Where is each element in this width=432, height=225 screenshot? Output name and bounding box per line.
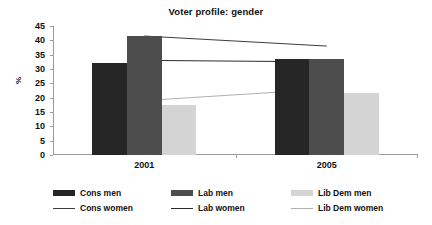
legend-line-stroke	[53, 208, 75, 209]
legend-line-icon	[291, 205, 313, 211]
y-axis-tick-label: 30	[35, 64, 45, 74]
y-axis-tick-label: 45	[35, 21, 45, 31]
bar-cons-men-2001	[92, 63, 127, 155]
bar-lib-dem-men-2005	[344, 93, 379, 155]
legend-line-icon	[53, 205, 75, 211]
plot-area	[53, 26, 418, 155]
legend-label: Cons women	[80, 203, 133, 213]
chart-title: Voter profile: gender	[0, 6, 432, 17]
x-axis-tick	[236, 155, 237, 158]
y-axis-tick-label: 25	[35, 78, 45, 88]
legend-item-lab-women[interactable]: Lab women	[171, 201, 245, 215]
legend-item-lib-dem-men[interactable]: Lib Dem men	[291, 186, 371, 200]
y-axis-tick	[50, 69, 53, 70]
legend-label: Lab men	[198, 188, 233, 198]
legend-swatch-icon	[291, 190, 313, 196]
y-axis-tick-label: 40	[35, 35, 45, 45]
legend-item-lab-men[interactable]: Lab men	[171, 186, 233, 200]
x-axis-tick-label: 2005	[317, 160, 337, 170]
x-axis-tick-label: 2001	[134, 160, 154, 170]
y-axis-tick	[50, 26, 53, 27]
legend-item-lib-dem-women[interactable]: Lib Dem women	[291, 201, 383, 215]
y-axis-tick-labels: 051015202530354045	[0, 26, 48, 155]
y-axis-tick-label: 15	[35, 107, 45, 117]
x-axis-tick-labels: 20012005	[53, 160, 418, 174]
chart-legend: Cons menLab menLib Dem men Cons womenLab…	[53, 186, 413, 218]
bar-lib-dem-men-2001	[162, 105, 197, 155]
legend-row-lines: Cons womenLab womenLib Dem women	[53, 201, 413, 215]
legend-label: Lab women	[198, 203, 245, 213]
bar-lab-men-2005	[309, 59, 344, 155]
legend-swatch-icon	[53, 190, 75, 196]
y-axis-tick	[50, 40, 53, 41]
y-axis-tick-label: 10	[35, 121, 45, 131]
bar-cons-men-2005	[275, 59, 310, 155]
legend-item-cons-women[interactable]: Cons women	[53, 201, 133, 215]
legend-label: Cons men	[80, 188, 121, 198]
legend-row-bars: Cons menLab menLib Dem men	[53, 186, 413, 200]
y-axis-tick	[50, 126, 53, 127]
bar-lab-men-2001	[127, 36, 162, 155]
legend-line-icon	[171, 205, 193, 211]
y-axis-tick	[50, 98, 53, 99]
y-axis-tick	[50, 112, 53, 113]
legend-label: Lib Dem men	[318, 188, 371, 198]
legend-label: Lib Dem women	[318, 203, 383, 213]
y-axis-tick	[50, 155, 53, 156]
legend-line-stroke	[171, 208, 193, 209]
y-axis-tick-label: 5	[40, 136, 45, 146]
y-axis-tick	[50, 83, 53, 84]
y-axis-tick-label: 35	[35, 50, 45, 60]
chart-container: Voter profile: gender % 0510152025303540…	[0, 0, 432, 225]
y-axis-tick	[50, 141, 53, 142]
legend-item-cons-men[interactable]: Cons men	[53, 186, 121, 200]
legend-swatch-icon	[171, 190, 193, 196]
y-axis-tick-label: 20	[35, 93, 45, 103]
y-axis-tick	[50, 55, 53, 56]
line-cons-women	[144, 36, 327, 46]
x-axis-tick	[417, 155, 418, 158]
y-axis-tick-label: 0	[40, 150, 45, 160]
legend-line-stroke	[291, 208, 313, 209]
